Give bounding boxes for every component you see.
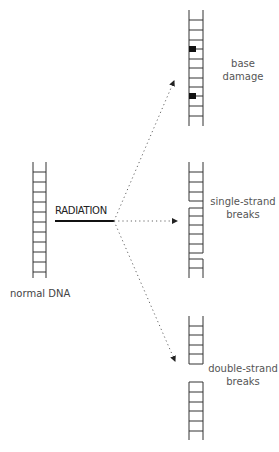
normal-dna-label: normal DNA: [10, 288, 70, 299]
base-damage-label: base damage: [215, 57, 271, 83]
radiation-label: RADIATION: [55, 205, 107, 216]
label-line: damage: [215, 70, 271, 83]
label-line: breaks: [207, 375, 279, 388]
double-strand-break-lower-piece: [189, 382, 203, 440]
double-strand-break-upper-piece: [189, 316, 203, 364]
damaged-base-mark: [189, 93, 196, 99]
single-strand-break-ladder: [189, 162, 203, 278]
damaged-base-mark: [189, 46, 196, 52]
base-damage-ladder: [189, 10, 203, 126]
normal-dna-ladder: [33, 162, 46, 278]
label-line: single-strand: [208, 195, 278, 208]
label-line: breaks: [208, 208, 278, 221]
label-line: double-strand: [207, 362, 279, 375]
label-line: base: [215, 57, 271, 70]
single-strand-breaks-label: single-strand breaks: [208, 195, 278, 221]
arrow-icon: [114, 81, 177, 361]
double-strand-breaks-label: double-strand breaks: [207, 362, 279, 388]
